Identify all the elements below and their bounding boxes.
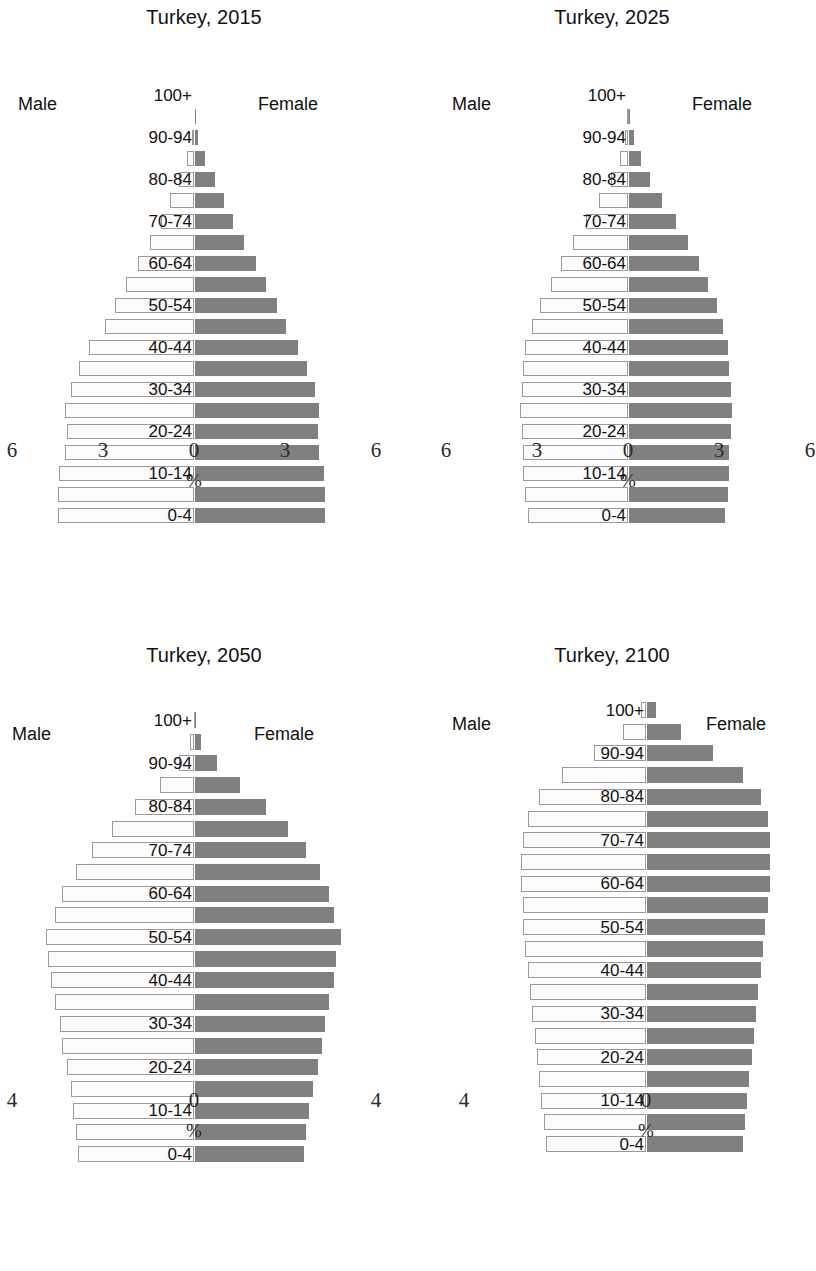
age-group-label: 60-64 [84,885,192,902]
female-bar [647,1006,756,1022]
panel-turkey-2050: Turkey, 2050 MaleFemale0-410-1420-2430-3… [0,620,408,1271]
female-bar [647,724,681,740]
pyramid-row [0,214,408,229]
female-bar [647,919,765,935]
female-bar [629,403,732,418]
female-bar [195,1146,304,1162]
female-bar [647,854,770,870]
male-bar [105,319,194,334]
age-group-label: 60-64 [84,255,192,272]
male-bar [525,941,646,957]
female-bar [195,994,329,1010]
age-group-label: 10-14 [518,465,626,482]
x-axis-tick: 0 [623,438,634,463]
age-group-label: 20-24 [536,1049,644,1066]
pyramid-row [408,403,816,418]
female-bar [629,319,723,334]
female-bar [629,109,630,124]
x-axis-unit-label: % [186,1120,202,1142]
female-bar [195,1016,325,1032]
pyramid-row [0,487,408,502]
male-bar [520,403,628,418]
pyramid-row [408,941,816,957]
pyramid-row [408,1071,816,1087]
pyramid-row [0,403,408,418]
panel-turkey-2015: Turkey, 2015 MaleFemale0-410-1420-2430-3… [0,0,408,620]
pyramid-row [408,487,816,502]
female-bar [629,214,676,229]
pyramid-row [0,972,408,988]
pyramid-row [0,1059,408,1075]
female-bar [195,277,266,292]
age-group-label: 30-34 [518,381,626,398]
male-bar [562,767,646,783]
age-group-label: 70-74 [84,842,192,859]
male-bar [187,151,194,166]
age-group-label: 90-94 [84,755,192,772]
pyramid-row [0,130,408,145]
female-bar [195,734,201,750]
pyramid-row [408,235,816,250]
female-bar [647,702,656,718]
female-bar [195,799,266,815]
male-bar [523,897,646,913]
pyramid-row [408,724,816,740]
male-bar [55,994,194,1010]
male-bar [573,235,628,250]
female-bar [195,424,318,439]
male-bar [528,811,646,827]
x-axis: 63036 [0,438,408,468]
age-group-label: 70-74 [518,213,626,230]
female-bar [195,214,233,229]
pyramid-row [0,424,408,439]
female-bar [647,767,743,783]
male-bar [48,951,194,967]
female-bar [647,962,761,978]
age-group-label: 0-4 [518,507,626,524]
pyramid-row [408,193,816,208]
pyramid-row [0,734,408,750]
female-bar [647,1136,743,1152]
age-group-label: 20-24 [518,423,626,440]
pyramid-row [0,1146,408,1162]
age-group-label: 50-54 [536,919,644,936]
female-bar [195,508,325,523]
male-bar [192,130,194,145]
pyramid-row [0,842,408,858]
female-bar [647,941,763,957]
age-group-label: 90-94 [84,129,192,146]
female-bar [629,193,662,208]
pyramid-row [0,193,408,208]
male-bar [539,1071,646,1087]
male-bar [126,277,194,292]
pyramid-row [0,907,408,923]
x-axis-tick: 4 [459,1088,470,1113]
male-bar [79,361,194,376]
age-group-label: 10-14 [84,1102,192,1119]
female-bar [647,897,768,913]
age-group-label: 100+ [84,712,192,729]
female-bar [629,256,699,271]
female-bar [195,256,256,271]
female-bar [195,1059,318,1075]
male-bar [521,854,646,870]
age-group-label: 40-44 [536,962,644,979]
male-bar [532,319,628,334]
x-axis-tick: 6 [371,438,382,463]
pyramid-row [0,235,408,250]
pyramid-row [408,151,816,166]
pyramid-row [0,799,408,815]
population-pyramid-figure: Turkey, 2015 MaleFemale0-410-1420-2430-3… [0,0,816,1271]
male-bar [523,361,628,376]
age-group-label: 90-94 [518,129,626,146]
female-bar [629,487,728,502]
female-bar [647,745,713,761]
female-bar [647,832,770,848]
pyramid-row [0,777,408,793]
age-group-label: 40-44 [84,972,192,989]
female-bar [195,340,298,355]
plot-area-2025: MaleFemale0-410-1420-2430-3440-4450-5460… [408,0,816,620]
pyramid-row [408,319,816,334]
female-bar [195,712,196,728]
pyramid-row [0,1038,408,1054]
